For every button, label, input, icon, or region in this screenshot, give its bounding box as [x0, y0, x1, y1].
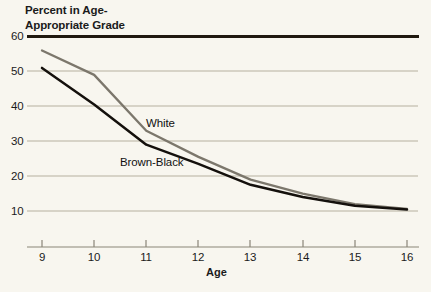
x-tick-label-15: 15 — [343, 251, 367, 263]
series-label-white: White — [146, 117, 175, 129]
x-axis-ticks — [42, 240, 407, 247]
x-axis-title: Age — [206, 266, 227, 278]
x-tick-label-12: 12 — [186, 251, 210, 263]
x-tick-label-13: 13 — [238, 251, 262, 263]
chart-figure: Percent in Age- Appropriate Grade 60 50 … — [0, 0, 431, 292]
x-tick-label-14: 14 — [291, 251, 315, 263]
gridlines — [27, 71, 418, 211]
series-label-brown-black: Brown-Black — [120, 156, 183, 168]
x-tick-label-11: 11 — [134, 251, 158, 263]
chart-plot-area — [0, 0, 431, 292]
series-line-white — [42, 50, 407, 208]
x-tick-label-9: 9 — [30, 251, 54, 263]
series-line-brown-black — [42, 68, 407, 210]
x-tick-label-10: 10 — [82, 251, 106, 263]
x-tick-label-16: 16 — [395, 251, 419, 263]
